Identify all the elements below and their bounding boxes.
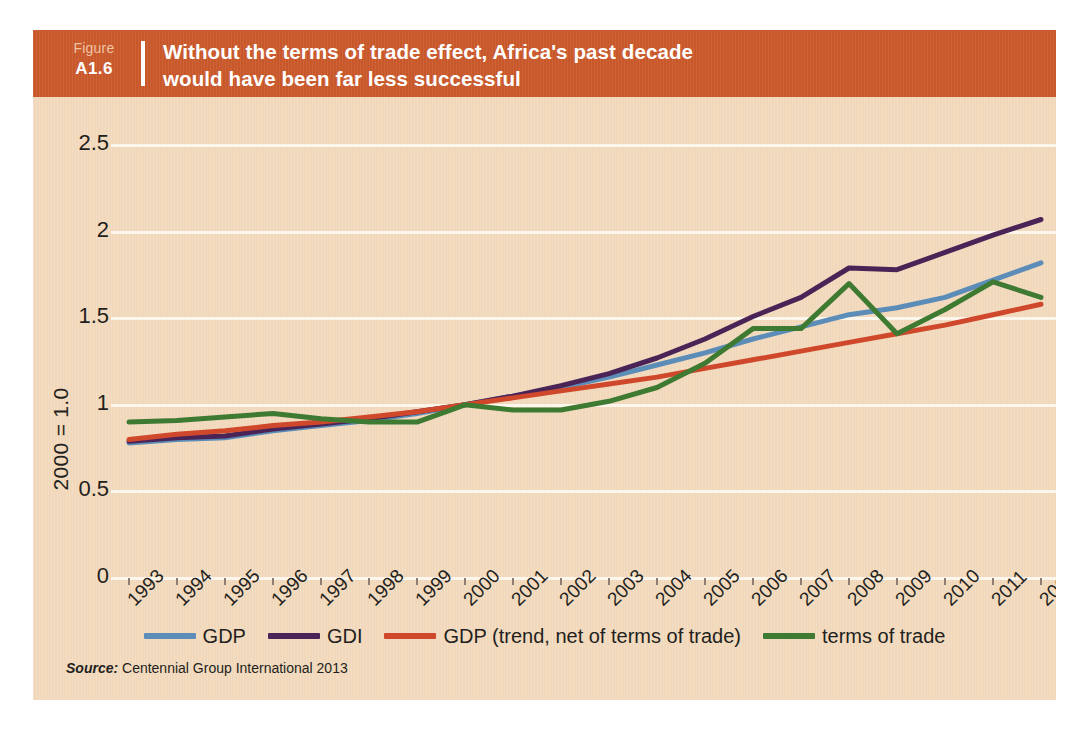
figure-title: Without the terms of trade effect, Afric… [163,38,1023,92]
figure-card: Figure A1.6 Without the terms of trade e… [33,30,1056,700]
y-tick-label: 0.5 [55,476,109,502]
legend-item[interactable]: GDP [144,625,246,648]
legend-label: GDP (trend, net of terms of trade) [443,625,741,648]
y-tick-label: 0 [55,563,109,589]
header-divider-rule [141,41,145,86]
figure-tag-word: Figure [55,40,133,58]
legend-label: terms of trade [822,625,945,648]
y-tick-label: 1 [55,390,109,416]
series-line [129,304,1041,439]
source-label: Source: [66,660,118,676]
figure-title-line-2: would have been far less successful [163,65,1023,92]
series-line [129,282,1041,422]
figure-header: Figure A1.6 Without the terms of trade e… [33,30,1056,97]
plot-region: 2000 = 1.0 00.511.522.5 1993199419951996… [33,97,1056,700]
chart-legend: GDPGDIGDP (trend, net of terms of trade)… [33,622,1056,650]
legend-item[interactable]: GDI [268,625,363,648]
legend-swatch [268,633,320,639]
figure-number-tag: Figure A1.6 [55,40,133,79]
source-note: Source: Centennial Group International 2… [66,660,348,676]
figure-tag-number: A1.6 [55,58,133,79]
legend-label: GDI [327,625,363,648]
y-tick-label: 2 [55,217,109,243]
legend-swatch [384,633,436,639]
source-text: Centennial Group International 2013 [122,660,348,676]
y-tick-label: 1.5 [55,303,109,329]
y-axis-tick-labels: 00.511.522.5 [51,97,109,700]
y-tick-label: 2.5 [55,130,109,156]
legend-swatch [144,633,196,639]
figure-title-line-1: Without the terms of trade effect, Afric… [163,38,1023,65]
legend-item[interactable]: terms of trade [763,625,945,648]
legend-item[interactable]: GDP (trend, net of terms of trade) [384,625,741,648]
legend-label: GDP [203,625,246,648]
legend-swatch [763,633,815,639]
